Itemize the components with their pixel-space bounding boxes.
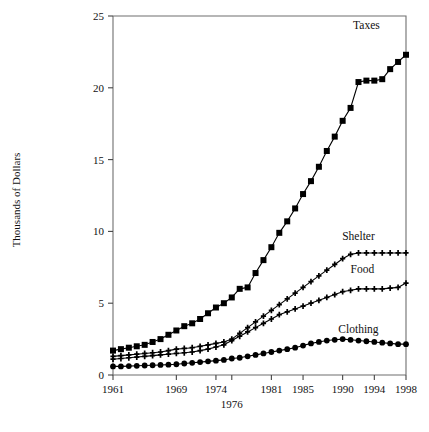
marker-food	[245, 329, 250, 335]
x-tick-label: 1969	[165, 383, 188, 395]
marker-food	[285, 309, 290, 315]
marker-taxes	[173, 327, 179, 333]
marker-taxes	[324, 148, 330, 154]
marker-food	[395, 285, 400, 291]
marker-clothing	[284, 346, 290, 352]
marker-taxes	[142, 342, 148, 348]
marker-taxes	[197, 316, 203, 322]
marker-taxes	[395, 59, 401, 65]
marker-food	[213, 344, 218, 350]
marker-shelter	[364, 250, 369, 256]
marker-clothing	[213, 358, 219, 364]
y-axis-label-text: Thousands of Dollars	[10, 153, 22, 248]
marker-taxes	[308, 178, 314, 184]
marker-clothing	[371, 339, 377, 345]
marker-taxes	[245, 284, 251, 290]
x-tick-label: 1994	[363, 383, 386, 395]
marker-clothing	[245, 353, 251, 359]
marker-taxes	[134, 343, 140, 349]
marker-clothing	[189, 360, 195, 366]
marker-taxes	[371, 78, 377, 84]
marker-clothing	[229, 356, 235, 362]
marker-taxes	[300, 191, 306, 197]
marker-clothing	[166, 362, 172, 368]
marker-clothing	[356, 338, 362, 344]
marker-clothing	[261, 351, 267, 357]
marker-clothing	[118, 363, 124, 369]
marker-clothing	[395, 341, 401, 347]
marker-clothing	[205, 358, 211, 364]
marker-shelter	[340, 256, 345, 262]
marker-shelter	[332, 262, 337, 268]
y-tick-label: 0	[99, 369, 105, 381]
marker-food	[388, 285, 393, 291]
marker-taxes	[205, 310, 211, 316]
marker-shelter	[269, 307, 274, 313]
marker-shelter	[388, 250, 393, 256]
marker-clothing	[181, 361, 187, 367]
marker-shelter	[293, 290, 298, 296]
marker-clothing	[292, 345, 298, 351]
marker-taxes	[284, 218, 290, 224]
marker-shelter	[403, 250, 408, 256]
marker-food	[182, 350, 187, 356]
marker-taxes	[403, 52, 409, 58]
marker-shelter	[348, 251, 353, 257]
marker-food	[166, 351, 171, 357]
marker-shelter	[300, 285, 305, 291]
marker-taxes	[363, 78, 369, 84]
marker-shelter	[372, 250, 377, 256]
x-axis-ticks: 196119691974197619811985199019941998	[102, 375, 418, 410]
marker-taxes	[387, 66, 393, 72]
line-chart: Thousands of Dollars 0510152025 19611969…	[0, 0, 429, 432]
marker-shelter	[277, 302, 282, 308]
y-axis-label: Thousands of Dollars	[10, 153, 22, 248]
marker-food	[300, 303, 305, 309]
data-series-group	[113, 55, 406, 367]
marker-food	[364, 286, 369, 292]
marker-shelter	[261, 313, 266, 319]
marker-clothing	[348, 337, 354, 343]
marker-clothing	[134, 363, 140, 369]
marker-clothing	[268, 349, 274, 355]
marker-clothing	[340, 336, 346, 342]
series-label-taxes: Taxes	[353, 19, 380, 31]
marker-taxes	[165, 332, 171, 338]
y-tick-label: 5	[99, 297, 105, 309]
y-tick-label: 15	[93, 154, 105, 166]
marker-food	[277, 312, 282, 318]
marker-taxes	[316, 164, 322, 170]
marker-food	[380, 286, 385, 292]
marker-taxes	[126, 345, 132, 351]
series-label-shelter: Shelter	[342, 230, 375, 242]
y-tick-label: 25	[93, 10, 105, 22]
marker-food	[198, 348, 203, 354]
marker-clothing	[300, 343, 306, 349]
marker-taxes	[348, 105, 354, 111]
marker-food	[348, 287, 353, 293]
y-axis-ticks: 0510152025	[93, 10, 113, 381]
marker-clothing	[221, 357, 227, 363]
marker-taxes	[355, 79, 361, 85]
x-tick-label: 1976	[221, 398, 244, 410]
data-markers-group	[110, 52, 409, 370]
marker-food	[356, 286, 361, 292]
x-tick-label: 1981	[260, 383, 282, 395]
x-tick-label: 1961	[102, 383, 124, 395]
x-tick-label: 1998	[395, 383, 418, 395]
series-line-food	[113, 283, 406, 359]
marker-clothing	[332, 337, 338, 343]
marker-food	[340, 289, 345, 295]
marker-food	[174, 351, 179, 357]
series-line-taxes	[113, 55, 406, 351]
marker-taxes	[189, 320, 195, 326]
marker-clothing	[253, 352, 259, 358]
marker-taxes	[237, 286, 243, 292]
marker-clothing	[158, 362, 164, 368]
chart-figure: Thousands of Dollars 0510152025 19611969…	[0, 0, 429, 432]
marker-taxes	[340, 118, 346, 124]
marker-clothing	[276, 348, 282, 354]
marker-clothing	[237, 355, 243, 361]
x-tick-label: 1985	[292, 383, 315, 395]
y-tick-label: 20	[93, 82, 105, 94]
